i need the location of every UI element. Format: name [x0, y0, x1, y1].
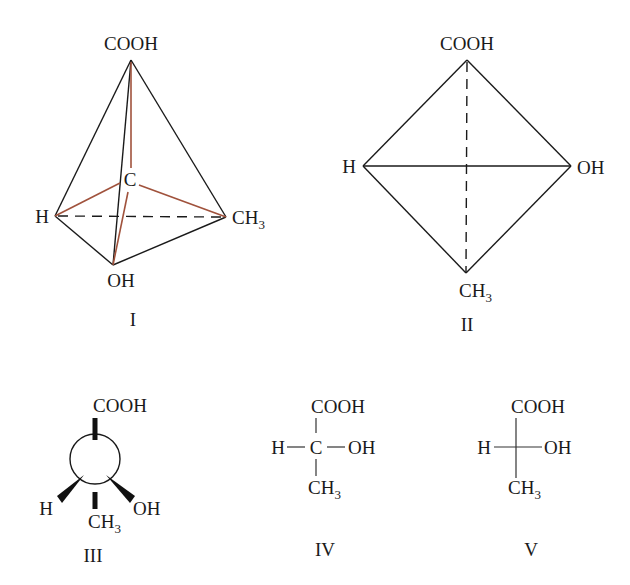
- structure-v: COOH H OH CH3 V: [477, 396, 572, 560]
- structure-ii: COOH H OH CH3 II: [342, 33, 605, 335]
- structure-label: II: [461, 314, 474, 335]
- edge-ch3-oh: [113, 217, 226, 265]
- label-h: H: [39, 498, 53, 519]
- bond-c-h: [55, 183, 120, 216]
- label-cooh: COOH: [511, 396, 565, 417]
- label-oh: OH: [544, 437, 572, 458]
- label-oh: OH: [348, 437, 376, 458]
- label-ch3: CH3: [459, 280, 492, 305]
- label-h: H: [271, 437, 285, 458]
- edge-h-oh: [55, 216, 113, 265]
- label-h: H: [477, 437, 491, 458]
- label-cooh: COOH: [440, 33, 494, 54]
- edge-top-left: [363, 60, 467, 166]
- label-h: H: [342, 156, 356, 177]
- label-cooh: COOH: [93, 395, 147, 416]
- edge-cooh-ch3-hidden: [466, 62, 467, 272]
- structure-iv: COOH H C OH CH3 IV: [271, 396, 376, 560]
- label-ch3: CH3: [308, 477, 341, 502]
- label-center-carbon: C: [310, 437, 323, 458]
- label-oh: OH: [107, 270, 135, 291]
- label-ch3: CH3: [88, 511, 121, 536]
- label-cooh: COOH: [311, 396, 365, 417]
- label-ch3: CH3: [508, 477, 541, 502]
- wedge-bond-h: [57, 475, 84, 503]
- label-oh: OH: [133, 498, 161, 519]
- structure-label: IV: [315, 539, 335, 560]
- lactic-acid-stereo-diagram: COOH C H CH3 OH I COOH H OH CH3 II COOH …: [0, 0, 630, 585]
- label-h: H: [35, 206, 49, 227]
- edge-left-bottom: [363, 166, 466, 273]
- ring-circle: [70, 434, 120, 484]
- edge-apex-ch3: [131, 60, 226, 217]
- edge-top-right: [467, 60, 571, 166]
- wedge-bond-oh: [106, 475, 135, 503]
- label-ch3: CH3: [232, 207, 265, 232]
- bond-c-oh: [113, 192, 128, 265]
- structure-iii: COOH H CH3 OH III: [39, 395, 161, 566]
- edge-h-ch3-hidden: [58, 216, 222, 217]
- structure-label: V: [524, 539, 538, 560]
- label-center-carbon: C: [124, 169, 137, 190]
- structure-label: III: [84, 545, 103, 566]
- structure-label: I: [130, 309, 136, 330]
- label-cooh: COOH: [104, 33, 158, 54]
- structure-i: COOH C H CH3 OH I: [35, 33, 265, 330]
- bond-c-ch3: [139, 185, 226, 217]
- label-oh: OH: [577, 157, 605, 178]
- edge-right-bottom: [466, 166, 571, 273]
